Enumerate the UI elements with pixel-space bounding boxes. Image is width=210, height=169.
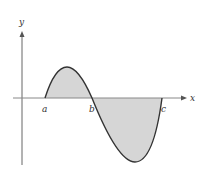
negative-region <box>92 98 162 162</box>
point-label-c: c <box>161 104 166 114</box>
x-axis-label: x <box>190 93 195 103</box>
point-label-b: b <box>89 104 95 114</box>
point-label-a: a <box>42 104 47 114</box>
area-diagram: y x a b c <box>0 0 210 169</box>
y-axis-label: y <box>18 17 25 27</box>
y-axis-arrow-icon <box>20 31 25 37</box>
x-axis-arrow-icon <box>181 96 187 101</box>
